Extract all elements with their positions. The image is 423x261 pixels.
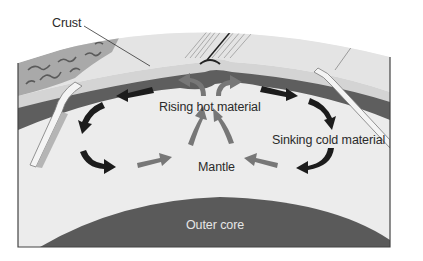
mantle-convection-diagram: Crust Rising hot material Sinking cold m…	[0, 0, 423, 261]
label-sinking-cold-material: Sinking cold material	[272, 133, 385, 147]
label-mantle: Mantle	[198, 160, 235, 174]
label-crust: Crust	[52, 16, 81, 30]
label-rising-hot-material: Rising hot material	[159, 100, 261, 114]
label-outer-core: Outer core	[186, 218, 244, 232]
